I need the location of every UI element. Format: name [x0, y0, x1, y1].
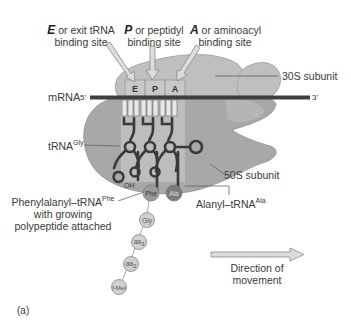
aa-label-ala: Ala [164, 188, 184, 200]
p-site-label: P or peptidyl binding site [122, 24, 186, 48]
codon-ladder [122, 100, 177, 116]
aa-label-aa2: aa2 [121, 258, 141, 270]
mrna-strand [90, 96, 310, 100]
a-site-label: A or aminoacyl binding site [190, 24, 260, 48]
direction-arrow [211, 248, 304, 261]
e-site-label: E or exit tRNA binding site [47, 24, 115, 48]
ribosome-diagram: E P A [0, 0, 351, 322]
aa-label-phe: Phe [141, 188, 161, 200]
mrna-label: mRNA [48, 91, 80, 103]
svg-text:A: A [172, 84, 179, 94]
aa-label-fmet: f-Met [107, 282, 131, 294]
aa-label-aa3: aa3 [129, 236, 149, 248]
mrna-5prime-label: 5' [80, 92, 86, 104]
large-subunit-label: 50S subunit [224, 169, 279, 181]
aa-label-gly: Gly [137, 215, 157, 227]
svg-text:E: E [132, 84, 138, 94]
panel-label: (a) [17, 305, 29, 317]
binding-site-boxes: E P A [125, 80, 185, 96]
oh-label: OH [124, 180, 135, 192]
small-subunit-label: 30S subunit [282, 70, 337, 82]
alanyl-trna-label: Alanyl–tRNAAla [196, 198, 266, 210]
direction-label: Direction of movement [222, 262, 292, 286]
mrna-3prime-label: 3' [312, 92, 318, 104]
phenylalanyl-trna-label: Phenylalanyl–tRNAPhe with growing polype… [8, 196, 118, 232]
svg-text:P: P [152, 84, 158, 94]
trna-gly-label: tRNAGly [48, 140, 84, 152]
